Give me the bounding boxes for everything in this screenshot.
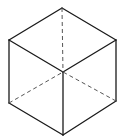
solid-edge-top-to-upper-right xyxy=(62,8,116,40)
cube-diagram xyxy=(0,0,134,140)
solid-edge-lower-left-to-bottom xyxy=(9,103,63,135)
solid-edge-upper-right-to-center xyxy=(63,40,116,72)
hidden-edge-lower-right-to-center xyxy=(63,72,116,101)
solid-edge-upper-left-to-center xyxy=(9,40,63,72)
solid-edge-top-to-upper-left xyxy=(9,8,62,40)
diagram-canvas xyxy=(0,0,134,140)
solid-edge-lower-right-to-bottom xyxy=(63,101,116,135)
hidden-edge-lower-left-to-center xyxy=(9,72,63,103)
hidden-edge-top-to-center xyxy=(62,8,63,72)
